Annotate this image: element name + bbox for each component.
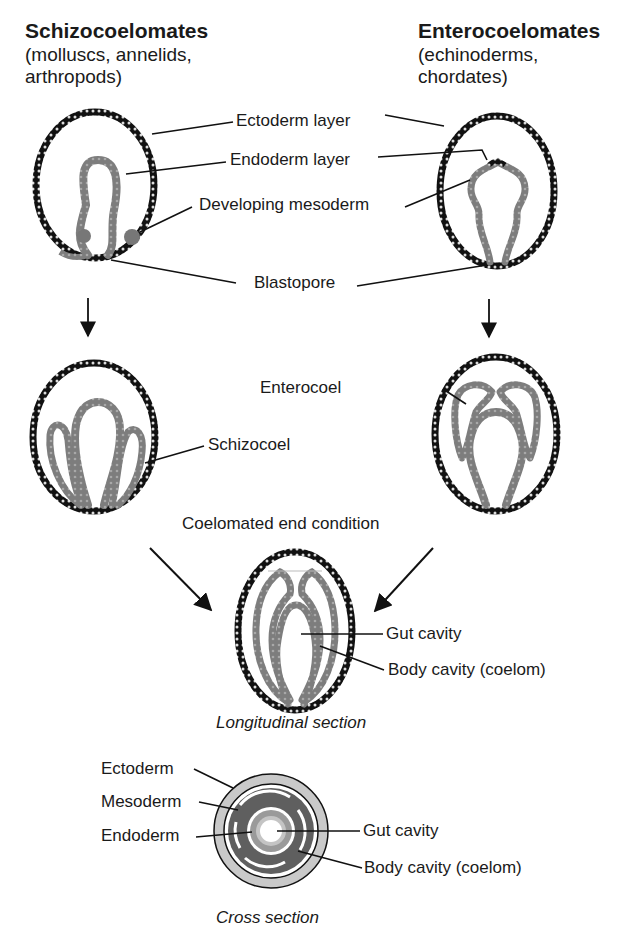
schizocoelomates-title: Schizocoelomates [25,19,208,43]
schizocoelomates-examples-line1: (molluscs, annelids, [25,44,192,66]
arrow-diagonal-right [375,548,433,611]
label-gut-cavity-longitudinal: Gut cavity [386,624,462,644]
label-body-cavity-longitudinal: Body cavity (coelom) [388,660,546,680]
schizocoelomate-embryo-stage1 [36,112,154,258]
label-gut-cavity-cross: Gut cavity [363,821,439,841]
label-mesoderm-cross: Mesoderm [101,792,181,812]
label-enterocoel: Enterocoel [260,378,341,398]
longitudinal-section-embryo [238,552,352,710]
coelom-development-diagram: Schizocoelomates (molluscs, annelids, ar… [0,0,636,949]
enterocoelomate-embryo-stage2 [435,357,557,511]
caption-longitudinal-section: Longitudinal section [216,713,366,733]
schizocoelomates-examples-line2: arthropods) [25,66,122,88]
enterocoelomates-examples-line1: (echinoderms, [418,44,538,66]
enterocoelomates-examples-line2: chordates) [418,66,508,88]
coelomated-end-condition-title: Coelomated end condition [182,514,380,534]
caption-cross-section: Cross section [216,908,319,928]
schizocoelomate-embryo-stage2 [33,363,155,511]
label-blastopore: Blastopore [254,273,335,293]
label-schizocoel: Schizocoel [208,435,290,455]
label-endoderm-layer: Endoderm layer [230,150,350,170]
enterocoelomate-embryo-stage1 [440,116,554,266]
label-developing-mesoderm: Developing mesoderm [199,195,369,215]
enterocoelomates-title: Enterocoelomates [418,19,600,43]
diagram-drawing [0,0,636,949]
arrow-diagonal-left [150,548,211,610]
label-ectoderm-cross: Ectoderm [101,759,174,779]
label-endoderm-cross: Endoderm [101,826,179,846]
label-ectoderm-layer: Ectoderm layer [236,111,350,131]
label-body-cavity-cross: Body cavity (coelom) [364,858,522,878]
